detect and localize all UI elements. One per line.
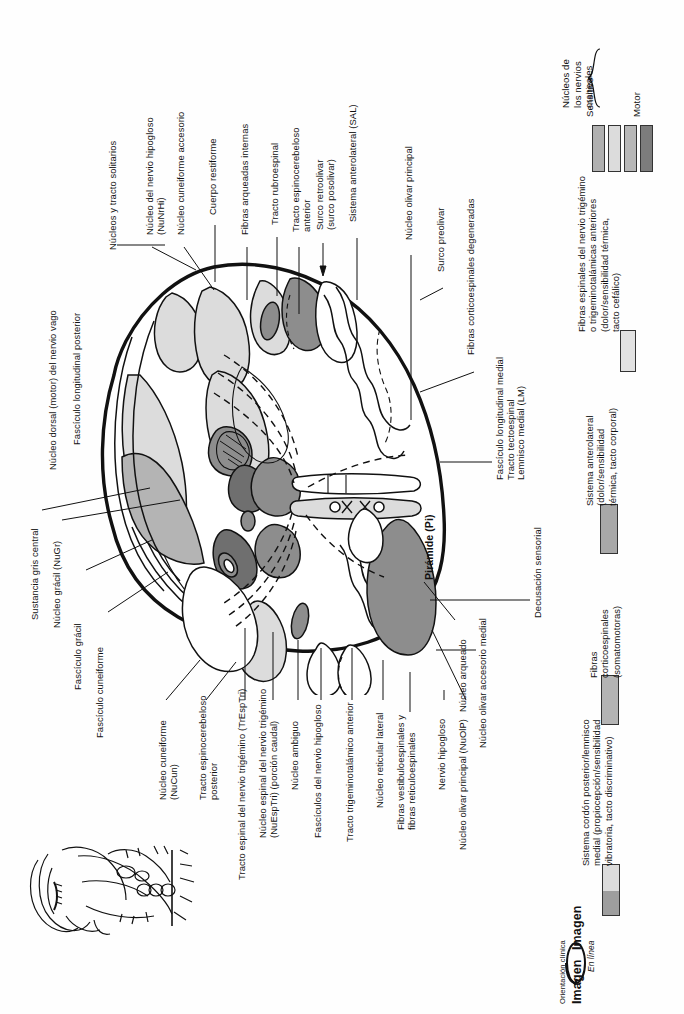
label-nucleo-cuneiforme-accesorio: Núcleo cuneiforme accesorio [176,112,187,235]
label-decusacion-sensorial: Decusación sensorial [533,527,544,618]
label-nucleo-arqueado: Núcleo arqueado [458,639,469,712]
label-fasciculo-gracil: Fascículo grácil [73,623,84,690]
label-surco-preolivar: Surco preolivar [436,208,447,272]
label-fasciculo-cuneiforme: Fascículo cuneiforme [95,647,106,738]
legend-text-fibras-espinales-trigemino: Fibras espinales del nervio trigémino o … [576,176,622,332]
figure-page: .out{fill:#fff;stroke:#111;stroke-width:… [0,0,684,1014]
label-nucleo-dorsal-vago: Núcleo dorsal (motor) del nervio vago [48,310,59,470]
label-nucleo-olivar-principal-nuolp: Núcleo olivar principal (NuOlP) [458,719,469,850]
label-tracto-espinal-trigemino: Tracto espinal del nervio trigémino (TrE… [237,689,248,880]
label-nucleos-tracto-solitarios: Núcleos y tracto solitarios [108,141,119,250]
label-nervio-hipogloso: Nervio hipogloso [437,719,448,790]
label-sistema-anterolateral-sal: Sistema anterolateral (SAL) [348,104,359,222]
brainstem-orientation-inset [22,820,212,950]
label-tracto-rubroespinal: Tracto rubroespinal [270,143,281,225]
label-tracto-espinocerebeloso-posterior: Tracto espinocerebeloso posterior [198,696,219,800]
legend-swatch-fibras-espinales-trigemino [620,330,636,372]
label-nucleo-ambiguo: Núcleo ambiguo [290,721,301,790]
legend-swatch-sensory-1 [592,125,605,172]
brand-logo-icon [540,905,650,1010]
legend-text-cordon-posterior: Sistema cordón posterior/lemnisco medial… [580,719,614,866]
label-cuerpo-restiforme: Cuerpo restiforme [208,138,219,215]
label-sustancia-gris-central: Sustancia gris central [30,528,41,620]
legend-text-sistema-anterolateral: Sistema anterolateral (dolor/sensibilida… [584,408,618,506]
label-tracto-trigeminotalamico-anterior: Tracto trigeminotalámico anterior [345,702,356,842]
legend-swatch-motor-2 [640,125,653,172]
label-nucleo-olivar-principal: Núcleo olivar principal [404,146,415,240]
legend-text-fibras-corticoespinales: Fibras corticoespinales (somatomotoras) [588,606,622,678]
label-surco-retroolivar: Surco retroolivar (surco posolivar) [315,159,336,230]
medulla-cross-section: .out{fill:#fff;stroke:#111;stroke-width:… [92,225,452,695]
label-fibras-vestibuloespinales: Fibras vestibuloespinales y fibras retic… [396,715,417,830]
label-nucleo-espinal-trigemino: Núcleo espinal del nervio trigémino (NuE… [258,689,279,838]
label-fibras-arqueadas-internas: Fibras arqueadas internas [240,124,251,235]
label-nucleo-nervio-hipogloso: Núcleo del nervio hipogloso (NuNrHi) [145,117,166,235]
label-nucleo-reticular-lateral: Núcleo reticular lateral [375,712,386,808]
label-flm-tectoespinal-lm: Fascículo longitudinal medial Tracto tec… [495,357,527,480]
label-fibras-corticoespinales-degeneradas: Fibras corticoespinales degeneradas [466,198,477,355]
legend-swatch-sistema-anterolateral [600,504,618,554]
legend-cranial-nuclei-label: Núcleos de los nervios craneales [560,59,595,108]
label-nucleo-gracil: Núcleo grácil (NuGr) [52,541,63,628]
label-fasciculo-longitudinal-posterior: Fascículo longitudinal posterior [72,313,83,445]
label-piramide: Pirámide (Pi) [424,514,435,580]
legend-swatch-sensory-2 [608,125,621,172]
legend-swatch-fibras-corticoespinales [601,675,619,725]
label-fasciculos-nervio-hipogloso: Fascículos del nervio hipogloso [313,704,324,838]
legend-swatch-motor-1 [624,125,637,172]
label-tracto-espinocerebeloso-anterior: Tracto espinocerebeloso anterior [291,128,312,232]
label-nucleo-olivar-accesorio-medial: Núcleo olivar accesorio medial [478,618,489,748]
legend-motor-label: Motor [632,92,643,117]
label-nucleo-cuneiforme-nucun: Núcleo cuneiforme (NuCun) [158,720,179,800]
